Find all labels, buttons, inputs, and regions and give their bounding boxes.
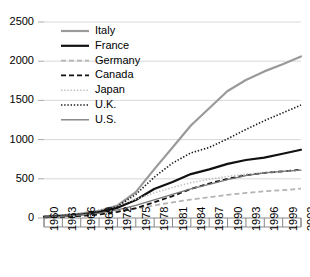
y-tick-label: 2000 bbox=[0, 55, 34, 66]
series-line-japan bbox=[44, 170, 301, 216]
y-tick-label: 1500 bbox=[0, 94, 34, 105]
legend-label-italy: Italy bbox=[95, 25, 115, 36]
series-line-canada bbox=[44, 170, 301, 218]
x-tick-label: 1960 bbox=[49, 207, 60, 231]
plot-area bbox=[0, 0, 310, 277]
x-tick-label: 1999 bbox=[288, 207, 299, 231]
data-series bbox=[44, 57, 301, 218]
x-tick-label: 1996 bbox=[269, 207, 280, 231]
x-tick-label: 1975 bbox=[141, 207, 152, 231]
legend-label-canada: Canada bbox=[95, 69, 134, 80]
x-tick-label: 1966 bbox=[86, 207, 97, 231]
legend-label-france: France bbox=[95, 40, 129, 51]
y-tick-label: 2500 bbox=[0, 16, 34, 27]
x-tick-label: 1990 bbox=[233, 207, 244, 231]
x-tick-label: 2002 bbox=[306, 207, 310, 231]
line-chart: 05001000150020002500 1960196319661969197… bbox=[0, 0, 310, 277]
legend-label-japan: Japan bbox=[95, 84, 125, 95]
x-tick-label: 1993 bbox=[251, 207, 262, 231]
series-line-us bbox=[44, 170, 301, 217]
legend-label-germany: Germany bbox=[95, 55, 140, 66]
x-tick-label: 1984 bbox=[196, 207, 207, 231]
legend-label-uk: U.K. bbox=[95, 99, 116, 110]
x-tick-label: 1981 bbox=[178, 207, 189, 231]
series-line-italy bbox=[44, 57, 301, 217]
series-line-uk bbox=[44, 105, 301, 217]
legend-swatches bbox=[61, 31, 89, 120]
y-tick-label: 500 bbox=[0, 173, 34, 184]
x-tick-label: 1987 bbox=[214, 207, 225, 231]
legend-label-us: U.S. bbox=[95, 114, 116, 125]
x-tick-label: 1972 bbox=[122, 207, 133, 231]
y-axis-ticks bbox=[38, 22, 44, 218]
x-tick-label: 1969 bbox=[104, 207, 115, 231]
y-tick-label: 0 bbox=[0, 212, 34, 223]
series-line-france bbox=[44, 150, 301, 217]
x-axis-ticks bbox=[44, 218, 301, 227]
x-tick-label: 1978 bbox=[159, 207, 170, 231]
y-tick-label: 1000 bbox=[0, 134, 34, 145]
x-tick-label: 1963 bbox=[67, 207, 78, 231]
